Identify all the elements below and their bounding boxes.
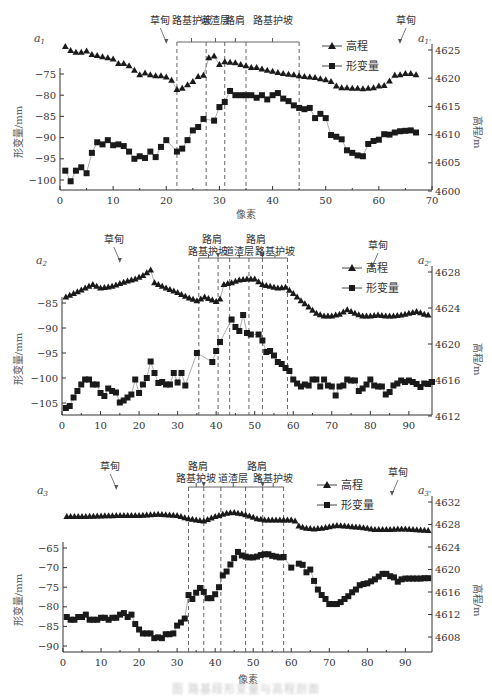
triangle-marker — [120, 60, 127, 66]
x-tick-label: 40 — [266, 195, 279, 206]
square-marker — [288, 565, 294, 571]
square-marker — [315, 587, 321, 593]
square-marker — [136, 390, 142, 396]
y-right-tick-label: 4605 — [435, 157, 460, 168]
x-tick-label: 80 — [361, 657, 374, 668]
square-marker — [381, 131, 387, 137]
y-right-tick-label: 4608 — [435, 632, 460, 643]
y-right-tick-label: 4628 — [435, 519, 460, 530]
y-left-tick-label: −85 — [37, 298, 58, 309]
square-marker — [425, 575, 431, 581]
y-right-tick-label: 4616 — [435, 587, 460, 598]
square-marker — [271, 353, 277, 359]
square-marker — [227, 88, 233, 94]
square-marker — [78, 164, 84, 170]
square-marker — [84, 170, 90, 176]
triangle-marker — [282, 284, 289, 290]
square-marker — [132, 621, 138, 627]
x-tick-label: 0 — [59, 420, 65, 431]
y-right-tick-label: 4620 — [435, 339, 460, 350]
square-marker — [158, 144, 164, 150]
square-marker — [100, 141, 106, 147]
square-marker — [175, 380, 181, 386]
square-marker — [306, 383, 312, 389]
square-marker — [270, 92, 276, 98]
square-marker — [392, 130, 398, 136]
square-marker — [115, 141, 121, 147]
square-marker — [201, 589, 207, 595]
square-marker — [224, 569, 230, 575]
y-right-tick-label: 4624 — [435, 303, 460, 314]
y-left-tick-label: −90 — [37, 323, 58, 334]
panel-label-right: a2' — [418, 254, 431, 268]
triangle-marker — [88, 51, 95, 57]
panel-label-left: a1 — [34, 32, 45, 46]
triangle-marker — [253, 64, 260, 70]
square-marker — [140, 382, 146, 388]
y-left-tick-label: −95 — [37, 348, 58, 359]
y-right-tick-label: 4612 — [435, 411, 460, 422]
y-left-tick-label: −85 — [35, 111, 56, 122]
y-left-tick-label: −80 — [38, 601, 59, 612]
square-marker — [137, 153, 143, 159]
square-marker — [413, 130, 419, 136]
square-marker — [209, 359, 215, 365]
square-marker — [313, 377, 319, 383]
panel-label-left: a3 — [37, 484, 49, 498]
square-marker — [349, 150, 355, 156]
x-tick-label: 30 — [171, 657, 184, 668]
square-marker — [94, 139, 100, 145]
square-marker — [68, 178, 74, 184]
square-marker — [182, 383, 188, 389]
triangle-marker — [211, 53, 218, 59]
square-marker — [376, 137, 382, 143]
square-marker — [73, 168, 79, 174]
legend-label: 形变量 — [346, 59, 379, 73]
y-left-tick-label: −100 — [29, 175, 56, 186]
square-marker — [153, 154, 159, 160]
square-marker — [105, 137, 111, 143]
square-marker — [429, 379, 435, 385]
zone-label: 草甸 — [100, 460, 120, 472]
x-axis-title: 像素 — [236, 208, 256, 220]
square-marker — [227, 561, 233, 567]
x-tick-label: 40 — [210, 420, 223, 431]
square-marker — [179, 146, 185, 152]
square-marker — [232, 92, 238, 98]
legend: 高程形变量 — [342, 261, 399, 295]
zone-label: 道渣层 — [218, 472, 248, 484]
square-marker — [323, 115, 329, 121]
square-marker — [174, 149, 180, 155]
square-marker — [317, 111, 323, 117]
y-left-axis-title: 形变量/mm — [12, 105, 24, 158]
square-marker — [67, 403, 73, 409]
square-marker — [190, 127, 196, 133]
square-marker — [144, 375, 150, 381]
square-marker — [280, 96, 286, 102]
square-marker — [328, 132, 334, 138]
zone-label: 路基护坡 — [253, 14, 293, 26]
triangle-marker — [402, 70, 409, 76]
y-left-tick-label: −75 — [38, 582, 59, 593]
square-marker — [126, 149, 132, 155]
square-marker — [243, 92, 249, 98]
x-tick-label: 70 — [426, 195, 439, 206]
x-tick-label: 70 — [325, 420, 338, 431]
square-marker — [340, 383, 346, 389]
series-deformation — [62, 88, 419, 184]
y-right-tick-label: 4628 — [435, 267, 460, 278]
panel-label-left: a2 — [36, 254, 48, 268]
square-marker — [216, 584, 222, 590]
zone-label: 路肩 — [202, 233, 222, 245]
x-tick-label: 80 — [364, 420, 377, 431]
y-right-tick-label: 4620 — [435, 564, 460, 575]
square-marker — [329, 384, 335, 390]
square-marker — [397, 128, 403, 134]
zone-label: 路肩 — [246, 233, 266, 245]
square-marker — [256, 332, 262, 338]
triangle-marker — [407, 70, 414, 76]
y-left-tick-label: −90 — [38, 641, 59, 652]
y-right-axis-title: 高程/m — [472, 116, 484, 149]
triangle-marker — [147, 267, 154, 273]
zone-label: 道渣层 — [224, 245, 254, 257]
